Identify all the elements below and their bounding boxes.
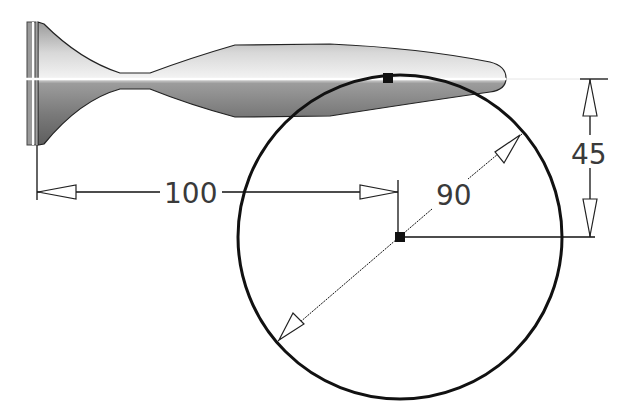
revolved-body[interactable]	[26, 22, 600, 145]
arrow-upper-icon	[495, 135, 520, 163]
dimension-label-100: 100	[164, 177, 217, 210]
end-face	[27, 22, 36, 145]
tangent-point[interactable]	[383, 73, 393, 83]
dimension-100[interactable]: 100	[37, 145, 398, 237]
arrow-left-icon	[38, 185, 76, 199]
arrow-right-icon	[360, 185, 397, 199]
arrow-down-icon	[583, 199, 597, 236]
cad-sketch-canvas: 100 90 45	[0, 0, 637, 418]
dimension-label-45: 45	[571, 138, 607, 171]
dimension-label-90: 90	[436, 179, 472, 212]
arrow-lower-icon	[279, 313, 304, 340]
arrow-up-icon	[583, 80, 597, 116]
body-profile	[38, 22, 506, 145]
